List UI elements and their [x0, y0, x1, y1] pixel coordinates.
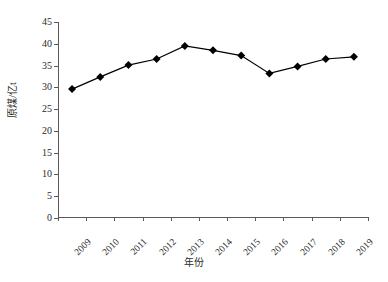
data-point-marker — [153, 55, 161, 63]
x-tick-label: 2017 — [299, 237, 319, 257]
x-tick-label: 2011 — [130, 237, 150, 257]
data-point-marker — [237, 52, 245, 60]
y-tick-label: 0 — [47, 213, 52, 223]
data-point-marker — [181, 42, 189, 50]
y-tick-label: 45 — [42, 17, 52, 27]
plot-area: 051015202530354045 200920102011201220132… — [58, 22, 368, 218]
x-tick-label: 2009 — [73, 237, 93, 257]
x-tick-label: 2015 — [242, 237, 262, 257]
y-tick-label: 40 — [42, 39, 52, 49]
data-point-marker — [68, 85, 76, 93]
data-point-marker — [294, 62, 302, 70]
x-tick-label: 2013 — [186, 237, 206, 257]
y-tick-label: 30 — [42, 82, 52, 92]
x-tick-label: 2018 — [327, 237, 347, 257]
data-series-line — [58, 22, 368, 218]
x-tick-label: 2014 — [214, 237, 234, 257]
x-axis-title: 年份 — [0, 258, 388, 268]
data-point-marker — [350, 53, 358, 61]
data-point-marker — [209, 46, 217, 54]
data-point-marker — [322, 55, 330, 63]
x-tick-mark — [368, 217, 369, 221]
y-tick-label: 25 — [42, 104, 52, 114]
y-tick-label: 10 — [42, 169, 52, 179]
y-tick-label: 5 — [47, 191, 52, 201]
data-point-marker — [265, 69, 273, 77]
y-tick-label: 20 — [42, 126, 52, 136]
x-tick-label: 2010 — [101, 237, 121, 257]
y-axis-title: 原煤/亿t — [8, 82, 18, 118]
data-point-marker — [124, 61, 132, 69]
x-tick-label: 2012 — [158, 237, 178, 257]
data-point-marker — [96, 73, 104, 81]
chart-figure: 原煤/亿t 051015202530354045 200920102011201… — [0, 0, 388, 282]
x-tick-label: 2016 — [270, 237, 290, 257]
y-tick-label: 15 — [42, 148, 52, 158]
x-tick-label: 2019 — [355, 237, 375, 257]
y-tick-label: 35 — [42, 61, 52, 71]
